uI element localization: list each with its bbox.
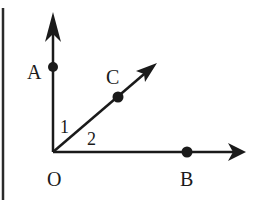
point-a <box>48 62 58 72</box>
label-c: C <box>106 66 119 88</box>
ray-oc <box>53 63 157 152</box>
ray-oa <box>45 12 61 152</box>
angle-label-2: 2 <box>87 129 96 149</box>
angle-diagram: A C O B 1 2 <box>0 0 266 203</box>
point-b <box>182 147 193 158</box>
ray-ob <box>53 143 246 161</box>
label-a: A <box>27 61 42 83</box>
label-b: B <box>180 168 193 190</box>
angle-label-1: 1 <box>60 117 69 137</box>
point-c <box>113 92 124 103</box>
label-o: O <box>47 168 61 190</box>
